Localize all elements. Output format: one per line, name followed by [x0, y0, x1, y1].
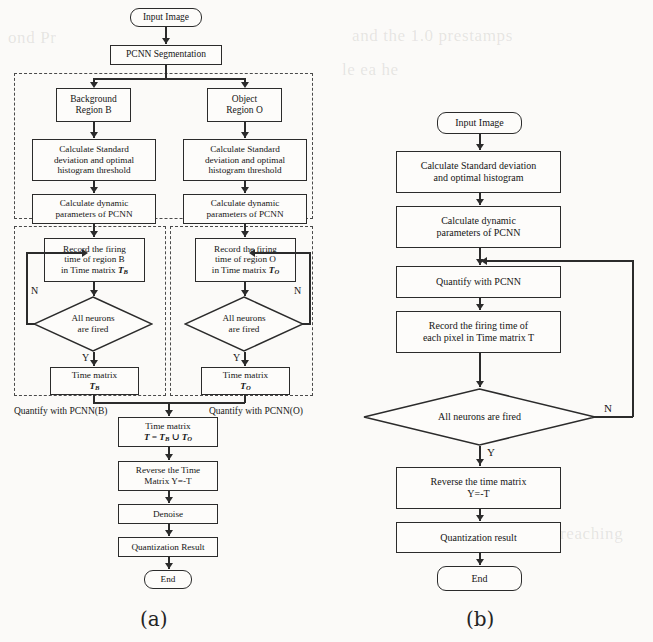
arrowhead-a-decisiono-to-timematrixo	[241, 360, 249, 366]
node-a-calc-std-b-lines: Calculate Standard deviation and optimal…	[51, 144, 137, 177]
node-a-calc-std-o[interactable]: Calculate Standard deviation and optimal…	[183, 139, 307, 181]
edge-a-seg-down	[165, 65, 167, 79]
node-a-record-firing-o-l3: in Time matrix	[212, 265, 269, 275]
node-a-calc-std-b-l3: histogram threshold	[57, 165, 130, 175]
node-b-input-image-label: Input Image	[452, 117, 507, 129]
node-a-object-region-l1: Object	[232, 94, 257, 104]
node-a-calc-std-o-l1: Calculate Standard	[210, 144, 280, 154]
node-b-calc-std[interactable]: Calculate Standard deviation and optimal…	[396, 151, 561, 193]
node-b-reverse-matrix[interactable]: Reverse the time matrix Y=-T	[396, 467, 561, 509]
node-a-end[interactable]: End	[144, 570, 192, 589]
node-a-record-firing-b[interactable]: Record the firing time of region B in Ti…	[44, 238, 145, 282]
node-b-input-image[interactable]: Input Image	[437, 112, 522, 134]
node-a-pcnn-segmentation[interactable]: PCNN Segmentation	[110, 45, 222, 65]
ghost-text-4: reaching	[560, 524, 623, 544]
node-a-object-region[interactable]: Object Region O	[207, 88, 282, 122]
node-a-background-region[interactable]: Background Region B	[56, 88, 131, 122]
node-a-calc-std-b[interactable]: Calculate Standard deviation and optimal…	[32, 139, 156, 181]
edge-a-loopo-vertical	[309, 252, 311, 324]
node-b-quantify-pcnn-label: Quantify with PCNN	[433, 276, 524, 288]
node-b-decision-label: All neurons are fired	[363, 388, 596, 446]
edge-a-loopb-vertical	[26, 252, 28, 324]
ghost-text-3: ond Pr	[8, 28, 56, 48]
node-a-quantization-result-label: Quantization Result	[128, 542, 207, 553]
node-b-reverse-matrix-lines: Reverse the time matrix Y=-T	[428, 476, 530, 500]
node-a-time-matrix-combined[interactable]: Time matrix T = TB ∪ TO	[118, 417, 218, 447]
arrowhead-a-bg-to-calcstd	[90, 132, 98, 138]
node-a-calc-dynamic-o-l2: parameters of PCNN	[206, 209, 283, 219]
arrowhead-a-decisionb-to-timematrixb	[90, 360, 98, 366]
node-a-decision-b[interactable]: All neurons are fired	[33, 296, 153, 352]
node-a-time-matrix-o-l1: Time matrix	[223, 370, 268, 380]
node-b-quantify-pcnn[interactable]: Quantify with PCNN	[396, 266, 561, 298]
arrowhead-a-dyno-to-recordo	[241, 231, 249, 237]
node-a-calc-dynamic-o[interactable]: Calculate dynamic parameters of PCNN	[183, 194, 307, 224]
node-a-time-matrix-b[interactable]: Time matrix TB	[50, 367, 139, 395]
node-a-reverse-matrix-l2: Matrix Y=-T	[144, 476, 191, 486]
node-a-time-matrix-combined-sub2: O	[187, 435, 192, 442]
node-a-record-firing-o-sub: O	[274, 269, 279, 276]
arrowhead-a-loopo	[249, 249, 255, 257]
edge-a-loopo-top	[254, 252, 310, 254]
node-a-reverse-matrix-l1: Reverse the Time	[136, 465, 200, 475]
node-a-record-firing-o[interactable]: Record the firing time of region O in Ti…	[195, 238, 296, 282]
arrowhead-b-calcstd-to-calcdyn	[476, 199, 484, 205]
node-b-quantization-result[interactable]: Quantization result	[396, 522, 561, 553]
node-a-denoise[interactable]: Denoise	[118, 504, 218, 524]
node-a-time-matrix-combined-l1: Time matrix	[145, 421, 190, 431]
node-b-end[interactable]: End	[437, 566, 522, 591]
arrowhead-a-calcstdb-to-dynb	[90, 187, 98, 193]
node-a-quantization-result[interactable]: Quantization Result	[118, 537, 218, 557]
arrowhead-a-loopb	[82, 249, 88, 257]
node-a-decision-o[interactable]: All neurons are fired	[184, 296, 304, 352]
caption-a: (a)	[140, 607, 168, 631]
node-a-denoise-label: Denoise	[150, 509, 186, 520]
node-a-record-firing-b-l3: in Time matrix	[61, 265, 118, 275]
node-a-decision-o-label: All neurons are fired	[184, 296, 304, 352]
node-a-background-region-l1: Background	[70, 94, 116, 104]
node-a-calc-dynamic-o-lines: Calculate dynamic parameters of PCNN	[203, 198, 286, 220]
node-b-calc-dynamic[interactable]: Calculate dynamic parameters of PCNN	[396, 206, 561, 248]
node-a-input-image[interactable]: Input Image	[130, 8, 202, 27]
arrowhead-a-dynb-to-recordb	[90, 231, 98, 237]
node-a-decision-b-label: All neurons are fired	[33, 296, 153, 352]
node-b-calc-dynamic-lines: Calculate dynamic parameters of PCNN	[434, 215, 524, 239]
node-b-calc-std-l2: and optimal histogram	[434, 172, 524, 183]
arrowhead-b-input-to-calcstd	[476, 144, 484, 150]
ghost-text-1: and the 1.0 prestamps	[352, 26, 513, 46]
edge-label-b-n: N	[604, 402, 612, 414]
node-b-reverse-matrix-l2: Y=-T	[467, 488, 489, 499]
arrowhead-b-quantify-to-record	[476, 304, 484, 310]
node-b-record-firing[interactable]: Record the firing time of each pixel in …	[396, 311, 561, 353]
node-a-object-region-lines: Object Region O	[223, 94, 266, 116]
caption-b: (b)	[466, 607, 494, 631]
edge-a-loopb-top	[26, 252, 86, 254]
node-a-time-matrix-b-lines: Time matrix TB	[69, 370, 120, 392]
node-a-decision-o-l1: All neurons	[222, 313, 265, 323]
node-b-decision-text: All neurons are fired	[438, 411, 521, 423]
arrowhead-a-obj-to-calcstd	[241, 132, 249, 138]
group-label-quantify-b: Quantify with PCNN(B)	[14, 406, 107, 416]
node-a-time-matrix-combined-formula: T = T	[144, 432, 165, 442]
node-b-record-firing-l2: each pixel in Time matrix T	[423, 332, 534, 343]
node-a-time-matrix-o-sub: O	[246, 384, 251, 391]
node-a-time-matrix-combined-op: ∪ T	[169, 432, 187, 442]
node-a-record-firing-o-l2: time of region O	[215, 254, 276, 264]
node-a-decision-b-lines: All neurons are fired	[71, 313, 114, 335]
node-a-time-matrix-o-lines: Time matrix TO	[220, 370, 271, 392]
node-a-calc-dynamic-b[interactable]: Calculate dynamic parameters of PCNN	[32, 194, 156, 224]
node-a-time-matrix-b-sub: B	[95, 384, 99, 391]
node-a-reverse-matrix[interactable]: Reverse the Time Matrix Y=-T	[118, 461, 218, 491]
node-a-time-matrix-b-l1: Time matrix	[72, 370, 117, 380]
node-a-calc-std-b-l1: Calculate Standard	[59, 144, 129, 154]
edge-label-a-n-left: N	[31, 285, 38, 296]
edge-label-a-n-right: N	[294, 285, 301, 296]
node-a-reverse-matrix-lines: Reverse the Time Matrix Y=-T	[133, 465, 203, 487]
edge-b-loop-vertical	[632, 260, 634, 417]
node-b-reverse-matrix-l1: Reverse the time matrix	[431, 476, 527, 487]
node-b-record-firing-lines: Record the firing time of each pixel in …	[420, 320, 537, 344]
node-a-calc-dynamic-o-l1: Calculate dynamic	[211, 198, 280, 208]
node-a-time-matrix-o[interactable]: Time matrix TO	[201, 367, 290, 395]
node-b-decision[interactable]: All neurons are fired	[363, 388, 596, 446]
node-b-calc-dynamic-l2: parameters of PCNN	[437, 227, 521, 238]
